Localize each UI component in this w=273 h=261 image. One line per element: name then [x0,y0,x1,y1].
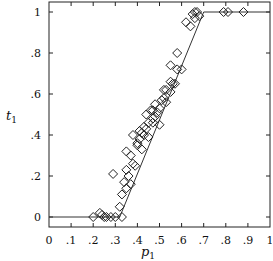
x-tick-label: 1 [267,234,273,247]
x-axis-ticks: 0.1.2.3.4.5.6.7.8.91 [46,2,273,247]
y-tick-label: .4 [31,129,42,142]
y-tick-label: .2 [31,170,42,183]
x-tick-label: .1 [66,234,77,247]
y-tick-label: 1 [34,6,41,19]
scatter-chart: 0.1.2.3.4.5.6.7.8.91 0.2.4.6.81 p1 t1 [0,0,272,261]
data-point-marker [109,169,118,178]
data-point-marker [186,22,195,31]
data-point-marker [173,49,182,58]
y-tick-label: 0 [34,211,41,224]
x-tick-label: .6 [176,234,187,247]
y-tick-label: .6 [31,88,42,101]
data-point-marker [122,147,131,156]
data-point-marker [126,151,135,160]
x-tick-label: .5 [154,234,165,247]
data-points [89,8,248,222]
x-tick-label: .2 [88,234,99,247]
x-tick-label: .8 [221,234,232,247]
y-tick-label: .8 [31,47,42,60]
x-tick-label: .3 [110,234,121,247]
y-axis-label: t1 [6,108,17,125]
x-tick-label: 0 [46,234,53,247]
x-tick-label: .9 [243,234,254,247]
x-axis-label: p1 [141,244,155,261]
data-point-marker [182,18,191,27]
x-tick-label: .7 [198,234,209,247]
